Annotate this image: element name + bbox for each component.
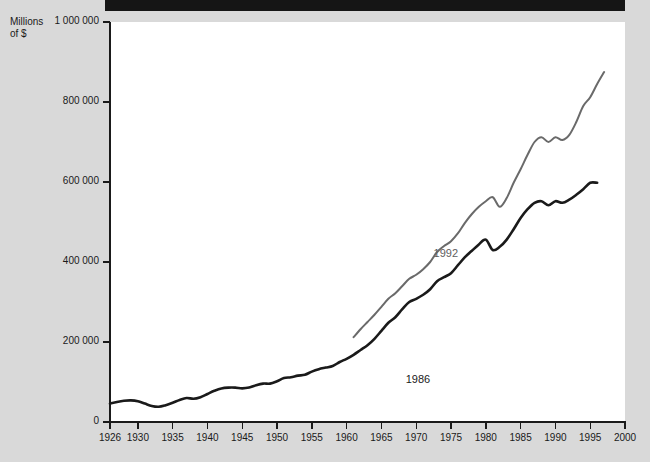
plot-area	[110, 22, 625, 422]
y-tick-label: 400 000	[0, 255, 99, 266]
x-tick-label: 1940	[196, 432, 218, 443]
x-tick-label: 1926	[99, 432, 121, 443]
x-tick	[485, 422, 486, 429]
x-tick-label: 1980	[475, 432, 497, 443]
x-tick	[207, 422, 208, 429]
x-tick-label: 1935	[162, 432, 184, 443]
x-tick-label: 1970	[405, 432, 427, 443]
y-tick	[103, 101, 110, 102]
top-black-band	[105, 0, 625, 11]
chart-page: Millions of $ 0200 000400 000600 000800 …	[0, 0, 650, 462]
y-tick-label: 1 000 000	[0, 15, 99, 26]
y-tick	[103, 341, 110, 342]
x-tick	[276, 422, 277, 429]
x-tick-label: 1965	[370, 432, 392, 443]
y-tick	[103, 261, 110, 262]
y-axis-line	[109, 22, 111, 423]
x-tick-label: 1990	[544, 432, 566, 443]
y-tick	[103, 21, 110, 22]
x-tick	[311, 422, 312, 429]
x-tick-label: 1985	[509, 432, 531, 443]
x-tick-label: 2000	[614, 432, 636, 443]
x-tick	[137, 422, 138, 429]
x-tick	[555, 422, 556, 429]
x-tick	[416, 422, 417, 429]
y-tick-label: 800 000	[0, 95, 99, 106]
y-tick	[103, 181, 110, 182]
x-tick-label: 1995	[579, 432, 601, 443]
series-label-1986: 1986	[406, 373, 430, 385]
x-tick	[109, 422, 110, 429]
x-tick-label: 1955	[301, 432, 323, 443]
x-tick-label: 1975	[440, 432, 462, 443]
x-tick	[624, 422, 625, 429]
series-label-1992: 1992	[434, 247, 458, 259]
x-tick	[242, 422, 243, 429]
y-tick-label: 600 000	[0, 175, 99, 186]
x-tick-label: 1930	[127, 432, 149, 443]
x-tick	[346, 422, 347, 429]
y-tick-label: 0	[0, 415, 99, 426]
x-tick	[450, 422, 451, 429]
x-tick	[172, 422, 173, 429]
x-axis-line	[109, 421, 626, 423]
x-tick-label: 1950	[266, 432, 288, 443]
y-tick-label: 200 000	[0, 335, 99, 346]
x-tick-label: 1945	[231, 432, 253, 443]
x-tick-label: 1960	[335, 432, 357, 443]
x-tick	[381, 422, 382, 429]
x-tick	[520, 422, 521, 429]
x-tick	[590, 422, 591, 429]
